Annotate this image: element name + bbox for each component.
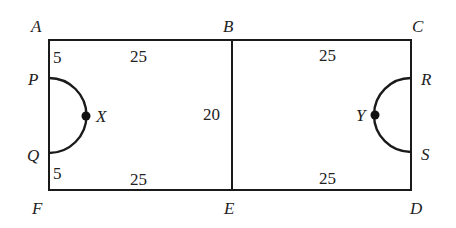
measure-ap: 5 [53, 48, 62, 67]
semicircle-pxq [49, 78, 86, 153]
label-a: A [30, 17, 42, 36]
measure-bc: 25 [319, 46, 336, 65]
measure-be: 20 [203, 105, 220, 124]
label-e: E [223, 199, 235, 218]
measure-ed: 25 [319, 169, 336, 188]
point-y-dot [371, 111, 380, 120]
label-y: Y [356, 106, 367, 125]
label-d: D [409, 199, 423, 218]
semicircle-rys [374, 78, 411, 152]
label-c: C [412, 17, 424, 36]
label-b: B [223, 17, 234, 36]
point-x-dot [82, 112, 91, 121]
label-p: P [27, 70, 38, 89]
label-f: F [31, 199, 43, 218]
measure-qf: 5 [53, 164, 62, 183]
label-s: S [421, 145, 430, 164]
measure-fe: 25 [130, 170, 147, 189]
measure-ab: 25 [130, 47, 147, 66]
label-x: X [95, 107, 107, 126]
label-r: R [420, 70, 432, 89]
geometry-diagram: A B C P Q X Y R S F E D 5 5 25 25 25 25 … [0, 0, 456, 228]
label-q: Q [27, 146, 39, 165]
